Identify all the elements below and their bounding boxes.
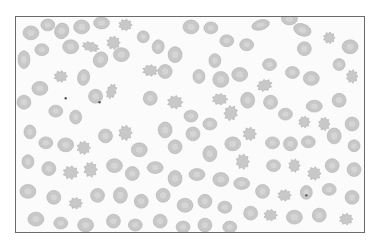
red-blood-cell xyxy=(156,188,170,202)
red-blood-cell xyxy=(345,190,359,204)
red-blood-cell xyxy=(225,137,241,151)
red-blood-cell xyxy=(213,173,229,187)
red-blood-cell xyxy=(220,35,234,47)
red-blood-cell xyxy=(218,201,232,213)
red-blood-cell xyxy=(263,59,277,71)
red-blood-cell xyxy=(286,210,302,224)
red-blood-cell xyxy=(20,184,36,198)
red-blood-cell xyxy=(327,128,341,144)
red-blood-cell xyxy=(186,127,200,141)
red-blood-cell xyxy=(184,110,198,122)
red-blood-cell xyxy=(198,218,212,232)
red-blood-cell xyxy=(267,160,281,172)
red-blood-cell xyxy=(89,89,103,103)
red-blood-cell xyxy=(22,155,34,169)
red-blood-cell xyxy=(42,162,56,176)
platelet-dot xyxy=(305,194,307,196)
red-blood-cell xyxy=(17,95,31,109)
crenated-cell xyxy=(346,70,358,84)
red-blood-cell xyxy=(189,169,205,181)
red-blood-cell xyxy=(345,117,359,131)
crenated-cell xyxy=(222,104,240,123)
red-blood-cell xyxy=(147,162,163,174)
crenated-cell xyxy=(236,154,250,170)
red-blood-cell xyxy=(94,17,110,29)
red-blood-cell xyxy=(251,18,271,32)
red-blood-cell xyxy=(106,214,120,228)
crenated-cell xyxy=(289,159,301,173)
red-blood-cell xyxy=(292,21,313,38)
red-blood-cell xyxy=(234,178,250,190)
crenated-cell xyxy=(299,116,311,128)
crenated-cell xyxy=(84,162,98,178)
red-blood-cell xyxy=(203,118,217,130)
crenated-cell xyxy=(107,36,121,50)
red-blood-cell xyxy=(76,69,91,87)
red-blood-cell xyxy=(223,221,237,232)
red-blood-cell xyxy=(63,40,79,54)
red-blood-cell xyxy=(24,125,36,139)
crenated-cell xyxy=(264,209,278,221)
red-blood-cell xyxy=(78,218,94,232)
red-blood-cell xyxy=(256,184,270,198)
red-blood-cell xyxy=(113,187,127,203)
red-blood-cell xyxy=(177,198,193,212)
red-blood-cell xyxy=(240,39,254,51)
red-blood-cell xyxy=(58,138,74,152)
red-blood-cell xyxy=(176,221,190,232)
red-blood-cell xyxy=(283,137,297,151)
red-blood-cell xyxy=(285,67,299,79)
crenated-cell xyxy=(324,32,336,44)
red-blood-cell xyxy=(198,194,212,208)
crenated-cell xyxy=(119,19,133,31)
red-blood-cell xyxy=(203,146,217,162)
red-blood-cell xyxy=(213,71,229,87)
crenated-cell xyxy=(143,65,158,77)
crenated-cell xyxy=(104,82,118,100)
red-blood-cell xyxy=(204,22,218,34)
crenated-cell xyxy=(168,95,183,109)
red-blood-cell xyxy=(41,19,55,31)
red-blood-cell xyxy=(106,159,122,173)
red-blood-cell xyxy=(312,208,326,222)
crenated-cell xyxy=(63,166,78,180)
crenated-cell xyxy=(81,40,100,54)
red-blood-cell xyxy=(131,143,147,157)
red-blood-cell xyxy=(332,93,346,107)
red-blood-cell xyxy=(183,20,199,34)
red-blood-cell xyxy=(137,31,149,43)
red-blood-cell xyxy=(18,51,30,69)
red-blood-cell xyxy=(39,137,53,149)
red-blood-cell xyxy=(54,217,68,229)
red-blood-cell xyxy=(232,68,248,82)
red-blood-cell xyxy=(28,212,44,226)
red-blood-cell xyxy=(300,185,312,199)
red-blood-cell xyxy=(74,20,90,34)
red-blood-cell xyxy=(322,183,336,195)
crenated-cell xyxy=(69,197,83,209)
red-blood-cell xyxy=(193,70,205,84)
red-blood-cell xyxy=(52,21,71,41)
blood-smear-image xyxy=(16,17,364,232)
red-blood-cell xyxy=(301,136,315,148)
red-blood-cell xyxy=(128,219,142,231)
crenated-cell xyxy=(256,77,275,93)
red-blood-cell xyxy=(244,206,258,220)
crenated-cell xyxy=(308,167,322,181)
red-blood-cell xyxy=(266,137,280,149)
crenated-cell xyxy=(77,141,91,155)
crenated-cell xyxy=(243,127,257,141)
red-blood-cell xyxy=(47,190,61,204)
crenated-cell xyxy=(54,71,68,83)
red-blood-cell xyxy=(297,42,311,56)
red-blood-cell xyxy=(91,49,111,70)
red-blood-cell xyxy=(49,105,63,117)
red-blood-cell xyxy=(278,108,292,120)
red-blood-cell xyxy=(99,129,113,143)
red-blood-cell xyxy=(168,140,182,154)
red-blood-cell xyxy=(264,95,278,109)
micrograph-frame: Peripheral blood smear micrograph showin… xyxy=(15,16,365,233)
red-blood-cell xyxy=(241,92,255,108)
platelet-dot xyxy=(98,101,100,103)
platelet-dot xyxy=(65,97,67,99)
